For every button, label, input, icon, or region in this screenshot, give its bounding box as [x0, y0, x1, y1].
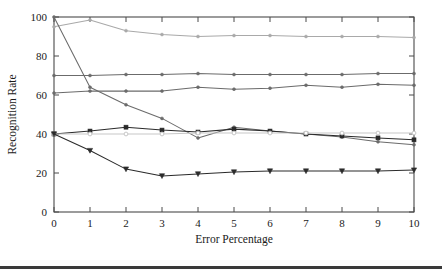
- data-point-marker: [412, 138, 416, 142]
- data-point-marker: [125, 29, 128, 32]
- data-point-marker: [413, 84, 416, 87]
- data-point-marker: [377, 35, 380, 38]
- x-axis-tick-label: 6: [267, 217, 273, 229]
- data-point-marker: [233, 88, 236, 91]
- data-point-marker: [233, 73, 236, 76]
- data-point-marker: [412, 131, 416, 135]
- data-point-marker: [53, 25, 56, 28]
- data-point-marker: [269, 87, 272, 90]
- data-point-marker: [341, 35, 344, 38]
- data-point-marker: [125, 103, 128, 106]
- data-point-marker: [305, 84, 308, 87]
- y-axis-tick-label: 80: [36, 50, 48, 62]
- data-point-marker: [89, 90, 92, 93]
- data-point-marker: [340, 131, 344, 135]
- figure-container: 012345678910020406080100Error Percentage…: [0, 0, 442, 269]
- series-series-2-flat-70: [53, 72, 416, 77]
- data-point-marker: [87, 148, 92, 153]
- line-chart: 012345678910020406080100Error Percentage…: [0, 0, 442, 269]
- series-series-6-flat-40-light: [52, 131, 416, 136]
- x-axis-tick-label: 7: [303, 217, 309, 229]
- series-series-7-bottom-dip: [51, 132, 416, 179]
- data-point-marker: [197, 136, 200, 139]
- data-point-marker: [161, 33, 164, 36]
- data-point-marker: [377, 72, 380, 75]
- plot-frame: [54, 17, 414, 212]
- data-point-marker: [53, 92, 56, 95]
- data-point-marker: [160, 132, 164, 136]
- data-point-marker: [160, 128, 164, 132]
- x-axis-tick-label: 1: [87, 217, 93, 229]
- data-point-marker: [305, 35, 308, 38]
- data-point-marker: [413, 36, 416, 39]
- data-point-marker: [89, 74, 92, 77]
- x-axis-tick-label: 2: [123, 217, 129, 229]
- y-axis-tick-label: 60: [36, 89, 48, 101]
- x-axis-tick-label: 0: [51, 217, 57, 229]
- x-axis-tick-label: 9: [375, 217, 381, 229]
- series-series-3-rising-62: [53, 83, 416, 95]
- data-point-marker: [232, 131, 236, 135]
- data-point-marker: [89, 86, 92, 89]
- data-point-marker: [161, 117, 164, 120]
- y-axis-tick-label: 100: [31, 11, 48, 23]
- data-point-marker: [196, 131, 200, 135]
- x-axis-tick-label: 10: [409, 217, 421, 229]
- x-axis-tick-label: 8: [339, 217, 345, 229]
- data-point-marker: [376, 136, 380, 140]
- data-point-marker: [161, 73, 164, 76]
- data-point-marker: [197, 35, 200, 38]
- x-axis-tick-label: 4: [195, 217, 201, 229]
- data-point-marker: [376, 131, 380, 135]
- data-point-marker: [89, 18, 92, 21]
- data-point-marker: [88, 132, 92, 136]
- data-point-marker: [125, 73, 128, 76]
- data-point-marker: [197, 86, 200, 89]
- data-point-marker: [124, 132, 128, 136]
- y-axis-tick-label: 0: [42, 206, 48, 218]
- data-point-marker: [269, 34, 272, 37]
- y-axis-tick-label: 20: [36, 167, 48, 179]
- data-point-marker: [124, 125, 128, 129]
- data-point-marker: [125, 90, 128, 93]
- data-point-marker: [53, 16, 56, 19]
- data-point-marker: [197, 72, 200, 75]
- data-point-marker: [161, 90, 164, 93]
- x-axis-title: Error Percentage: [195, 233, 273, 246]
- y-axis-title: Recognition Rate: [6, 74, 19, 154]
- data-point-marker: [377, 83, 380, 86]
- data-point-marker: [268, 131, 272, 135]
- data-point-marker: [304, 131, 308, 135]
- x-axis-tick-label: 3: [159, 217, 165, 229]
- data-point-marker: [341, 73, 344, 76]
- data-point-marker: [377, 140, 380, 143]
- data-point-marker: [413, 72, 416, 75]
- data-point-marker: [53, 74, 56, 77]
- data-point-marker: [413, 143, 416, 146]
- data-point-marker: [341, 86, 344, 89]
- x-axis-tick-label: 5: [231, 217, 237, 229]
- data-point-marker: [305, 73, 308, 76]
- data-point-marker: [232, 127, 236, 131]
- data-point-marker: [269, 73, 272, 76]
- data-point-marker: [233, 34, 236, 37]
- y-axis-tick-label: 40: [36, 128, 48, 140]
